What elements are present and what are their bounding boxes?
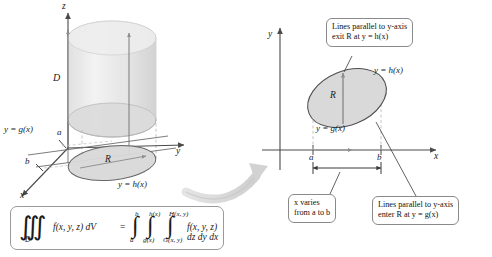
z-axis-label: z <box>62 2 66 12</box>
x-range-callout-line2: from a to b <box>294 208 330 218</box>
exit-callout-line1: Lines parallel to y-axis <box>332 22 407 32</box>
g-curve-label-left: y = g(x) <box>4 125 33 134</box>
x-axis-label-right: x <box>434 152 438 162</box>
rhs-integrand: f(x, y, z) dz dy dx <box>187 222 223 242</box>
tick-a-label-left: a <box>57 128 62 137</box>
exit-callout: Lines parallel to y-axis exit R at y = h… <box>326 18 413 47</box>
equals-sign: = <box>120 222 125 232</box>
middle-upper-limit: h(x) <box>149 210 160 218</box>
tick-a-left <box>59 140 66 148</box>
solid-D <box>68 21 156 137</box>
exit-callout-line2: exit R at y = h(x) <box>332 32 407 42</box>
left-panel-group <box>22 13 184 196</box>
enter-callout: Lines parallel to y-axis enter R at y = … <box>372 196 459 225</box>
outer-upper-limit: b <box>135 210 139 218</box>
lhs-integral-signs: ∭ <box>19 211 43 242</box>
transition-arrow <box>186 163 268 199</box>
region-R-label-left: R <box>105 155 111 165</box>
inner-upper-limit: H(x, y) <box>169 210 188 218</box>
solid-D-label: D <box>53 73 60 83</box>
enter-callout-line1: Lines parallel to y-axis <box>378 200 453 210</box>
outer-lower-limit: a <box>130 236 134 244</box>
a-projection-dash <box>62 141 112 146</box>
region-R-label-right: R <box>330 91 336 101</box>
enter-callout-line2: enter R at y = g(x) <box>378 210 453 220</box>
x-range-callout: x varies from a to b <box>288 194 336 223</box>
inner-lower-limit: G(x, y) <box>163 236 182 244</box>
tick-b-left <box>36 164 43 171</box>
lhs-subscript-D: D <box>25 235 30 244</box>
middle-lower-limit: g(x) <box>143 236 154 244</box>
tick-b-label-right: b <box>377 153 382 162</box>
tick-a-label-right: a <box>309 153 314 162</box>
y-axis-label-right: y <box>268 30 272 40</box>
triple-integral-formula-box: ∭ D f(x, y, z) dV = ∫ b a ∫ h(x) g(x) ∫ … <box>10 206 224 250</box>
lhs-integrand: f(x, y, z) dV <box>53 222 96 232</box>
leader-x-range <box>330 172 340 194</box>
x-range-span <box>313 162 381 174</box>
right-panel-group <box>262 28 436 196</box>
tick-b-label-left: b <box>25 157 30 166</box>
leader-enter <box>376 122 416 196</box>
x-range-callout-line1: x varies <box>294 198 330 208</box>
g-curve-label-right: y = g(x) <box>316 124 345 133</box>
figure-canvas: z y x D R y = g(x) y = h(x) a b y x R y … <box>0 0 492 257</box>
x-axis-label-left: x <box>20 191 24 201</box>
h-curve-label-left: y = h(x) <box>118 180 147 189</box>
y-axis-label-left: y <box>176 147 180 157</box>
h-curve-label-right: y = h(x) <box>374 66 403 75</box>
